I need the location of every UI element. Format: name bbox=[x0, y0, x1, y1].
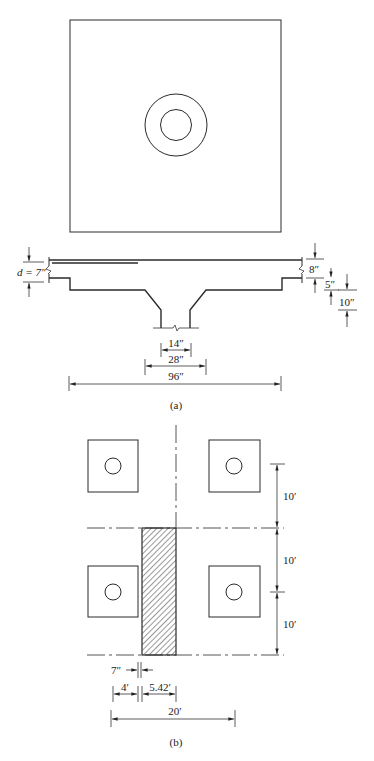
dim-20ft-label: 20′ bbox=[168, 705, 181, 717]
figure-b-caption: (b) bbox=[170, 736, 183, 749]
column-circle-bottom-left bbox=[105, 584, 121, 600]
design-strip-hatched bbox=[142, 528, 176, 655]
column-circle-bottom-right bbox=[226, 584, 242, 600]
break-symbol-left bbox=[46, 266, 51, 274]
section-view-a: d = 7″ 8″ 5″ 10″ 14″ 28″ 96″ (a) bbox=[17, 243, 357, 412]
column-circle-top-right bbox=[226, 458, 242, 474]
dim-10in-label: 10″ bbox=[339, 296, 355, 308]
column-circle-top-left bbox=[105, 458, 121, 474]
dim-96in-label: 96″ bbox=[168, 370, 184, 382]
dim-28in-label: 28″ bbox=[168, 353, 184, 365]
column-square-bottom-left bbox=[88, 566, 138, 617]
dim-8in-label: 8″ bbox=[309, 263, 319, 275]
dim-10ft-label-1: 10′ bbox=[283, 490, 296, 502]
break-symbol-right bbox=[299, 266, 304, 274]
dim-14in-label: 14″ bbox=[168, 337, 184, 349]
plan-view-b: 10′ 10′ 10′ 7″ 4′ 5.42′ 20′ (b) bbox=[87, 425, 296, 749]
section-profile-right bbox=[190, 278, 302, 328]
column-break-line bbox=[153, 325, 199, 331]
column-square-top-left bbox=[88, 440, 138, 492]
dim-10ft-label-2: 10′ bbox=[283, 554, 296, 566]
figure-a-caption: (a) bbox=[170, 399, 183, 412]
dim-d-label: d = 7″ bbox=[17, 266, 46, 278]
plan-view-a bbox=[70, 20, 281, 232]
drawing-canvas: d = 7″ 8″ 5″ 10″ 14″ 28″ 96″ (a) bbox=[0, 0, 374, 761]
column-square-top-right bbox=[209, 440, 260, 492]
dim-10ft-label-3: 10′ bbox=[283, 618, 296, 630]
column-circle bbox=[161, 110, 192, 141]
dim-5-42ft-label: 5.42′ bbox=[149, 681, 171, 693]
drop-panel-circle bbox=[145, 94, 207, 156]
section-profile-left bbox=[49, 278, 161, 328]
column-square-bottom-right bbox=[209, 566, 260, 617]
dim-7in-label: 7″ bbox=[111, 664, 121, 676]
dim-4ft-label: 4′ bbox=[121, 681, 129, 693]
slab-panel-outline bbox=[70, 20, 281, 232]
dim-5in-label: 5″ bbox=[325, 278, 335, 290]
